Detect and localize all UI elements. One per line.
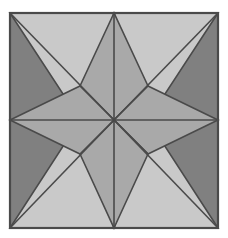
artwork-canvas — [0, 0, 228, 238]
radial-division-lines — [10, 13, 218, 228]
star-tile-figure — [0, 0, 228, 238]
